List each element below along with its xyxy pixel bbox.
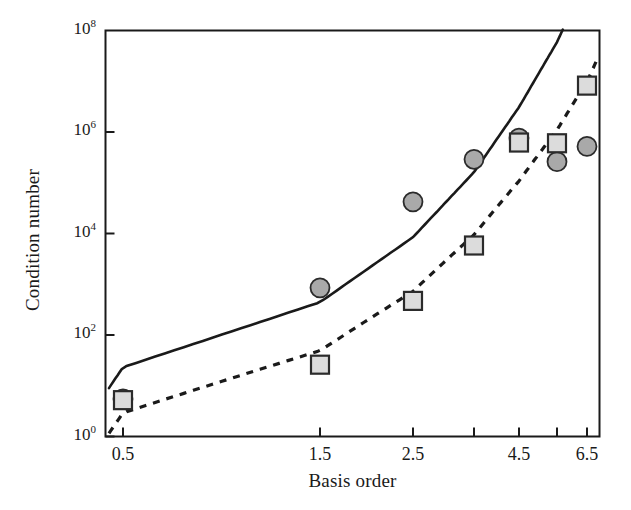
x-tick-label: 2.5 — [383, 444, 443, 465]
y-tick-label: 104 — [32, 222, 96, 242]
x-tick-label: 4.5 — [489, 444, 549, 465]
data-point-circle — [404, 192, 423, 211]
series-line-circles — [109, 30, 563, 389]
plot-frame — [106, 31, 600, 437]
series-lines — [109, 30, 596, 434]
data-point-square — [404, 292, 422, 310]
y-tick-label: 100 — [32, 425, 96, 445]
data-point-square — [465, 237, 483, 255]
data-point-square — [510, 134, 528, 152]
data-point-square — [114, 391, 132, 409]
data-point-circle — [548, 152, 567, 171]
x-tick-label: 6.5 — [557, 444, 617, 465]
x-tick-label: 1.5 — [290, 444, 350, 465]
data-point-square — [578, 77, 596, 95]
x-tick-label: 0.5 — [93, 444, 153, 465]
data-point-square — [548, 134, 566, 152]
data-point-square — [311, 356, 329, 374]
data-point-circle — [465, 150, 484, 169]
series-markers — [114, 77, 597, 410]
series-line-squares — [109, 61, 596, 433]
data-point-circle — [578, 137, 597, 156]
data-point-circle — [311, 278, 330, 297]
chart-page: Condition number Basis order 10810610410… — [0, 0, 631, 510]
y-tick-label: 102 — [32, 323, 96, 343]
x-axis-ticks — [123, 428, 587, 437]
y-tick-label: 106 — [32, 120, 96, 140]
y-tick-label: 108 — [32, 19, 96, 39]
